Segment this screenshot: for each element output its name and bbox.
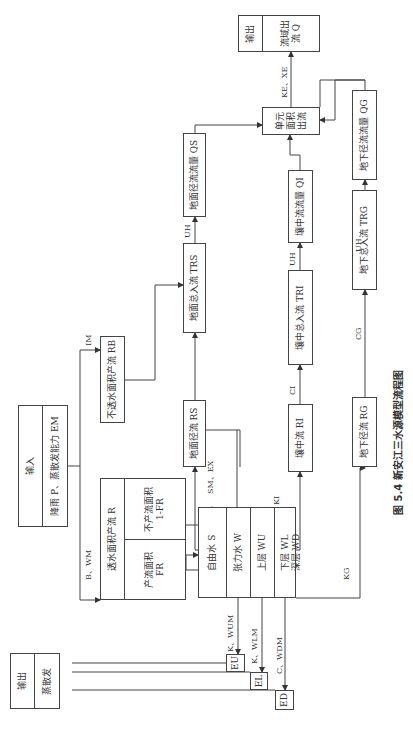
qs-box: 地面径流流量 QS [183, 133, 206, 217]
input-content: 降雨 P、蒸散发能力 EM [43, 406, 67, 526]
pervious-runoff-title: 透水面积产流 R [101, 479, 125, 599]
output-evap-box: 输出 蒸散发 [10, 653, 60, 709]
output-basin-title: 输出 [239, 16, 263, 51]
label-ki: KI [272, 496, 281, 505]
label-ke-xe: KE、XE [280, 67, 289, 98]
pervious-runoff-box: 透水面积产流 R 产流面积 FR 不产流面积 1-FR [100, 478, 186, 600]
soil-water-box: 自由水 S 张力水 W 上层 WU 下层 WL [198, 507, 296, 598]
output-basin-box: 输出 流域出流 Q [238, 15, 320, 52]
figure-caption: 图 5.4 新安江三水源模型流程图 [390, 370, 405, 515]
label-cg: CG [354, 327, 363, 340]
label-uh-g: UH [354, 238, 363, 252]
output-basin-content: 流域出流 Q [263, 16, 319, 51]
label-uh-s: UH [183, 224, 192, 238]
input-box: 输入 降雨 P、蒸散发能力 EM [18, 405, 68, 527]
rg-box: 地下径流 RG [352, 397, 377, 467]
output-evap-content: 蒸散发 [35, 654, 59, 708]
flowchart-canvas: 输出 蒸散发 输入 降雨 P、蒸散发能力 EM 透水面积产流 R 产流面积 FR… [0, 0, 413, 730]
eu-box: EU [226, 654, 245, 672]
label-b-wm: B、WM [84, 550, 93, 580]
qi-box: 壤中流流量 QI [288, 170, 313, 243]
label-im: IM [84, 335, 93, 346]
free-water-cell: 自由水 S [199, 508, 227, 597]
unit-outflow-box: 单元面积出流 [262, 107, 320, 135]
non-runoff-area-cell: 不产流面积 1-FR [125, 479, 185, 539]
label-ci: CI [288, 386, 297, 395]
tension-water-w: 张力水 W [227, 508, 251, 597]
label-k-wlm: K、WLM [250, 628, 259, 664]
runoff-area-cell: 产流面积 FR [125, 539, 185, 599]
tri-box: 壤中总入流 TRI [288, 270, 313, 365]
qg-box: 地下径流流量 QG [352, 90, 377, 180]
ri-box: 壤中流 RI [288, 404, 313, 472]
el-box: EL [250, 672, 268, 690]
input-title: 输入 [19, 406, 43, 526]
rs-box: 地面径流 RS [183, 400, 206, 467]
label-sm-ex: SM、EX [206, 461, 215, 494]
label-kg: KG [342, 568, 351, 580]
ed-box: ED [275, 690, 294, 710]
label-uh-i: UH [288, 252, 297, 266]
trs-box: 地面总入流 TRS [183, 243, 206, 333]
tension-water-wu: 上层 WU [251, 508, 275, 597]
label-k-wum: K、WUM [226, 615, 235, 652]
impervious-runoff-box: 不透水面积产流 RB [100, 336, 125, 423]
output-evap-title: 输出 [11, 654, 35, 708]
label-c-wdm: C、WDM [275, 637, 284, 674]
